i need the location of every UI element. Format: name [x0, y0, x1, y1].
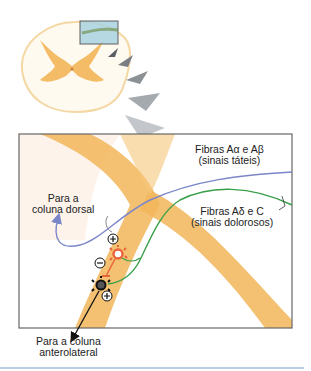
- anterolateral-line2: anterolateral: [36, 347, 101, 358]
- anterolateral-column-label: Para a coluna anterolateral: [36, 336, 101, 358]
- pain-fibers-subtitle: (sinais dolorosos): [191, 217, 273, 228]
- excitatory-synapse-bottom: [102, 291, 112, 301]
- tactile-fibers-subtitle: (sinais táteis): [195, 155, 264, 166]
- pain-fibers-label: Fibras Aδ e C (sinais dolorosos): [191, 206, 273, 228]
- dorsal-column-label: Para a coluna dorsal: [32, 193, 94, 215]
- spinal-cord-section: [22, 21, 130, 112]
- tactile-fibers-label: Fibras Aα e Aβ (sinais táteis): [195, 144, 264, 166]
- excitatory-synapse-top: [108, 234, 118, 244]
- dorsal-column-line2: coluna dorsal: [32, 204, 94, 215]
- inhibitory-synapse: [95, 258, 105, 268]
- diagram-canvas: [0, 0, 311, 371]
